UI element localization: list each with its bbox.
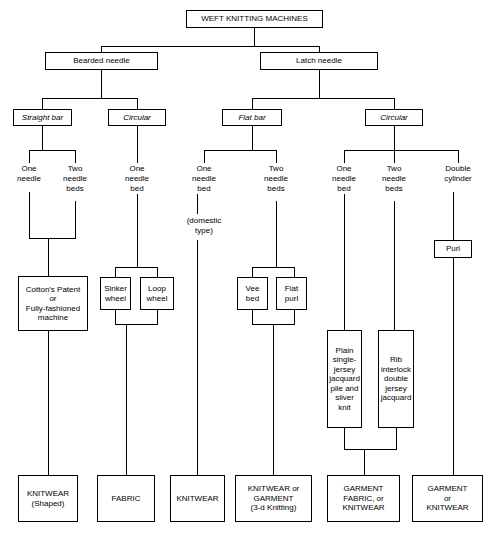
connector-bearded-bus bbox=[42, 98, 137, 99]
connector-flat-purl-down bbox=[294, 310, 295, 324]
connector-latch-to-flat-bar bbox=[252, 98, 253, 109]
connector-wheel-split-bus bbox=[115, 267, 158, 268]
connector-flat-bar-to-two-needle-beds bbox=[276, 150, 277, 163]
node-flat-bar: Flat bar bbox=[222, 109, 282, 126]
connector-to-loop-wheel bbox=[157, 267, 158, 277]
node-latch-needle: Latch needle bbox=[260, 52, 378, 70]
label-two-needle-beds-flat-bar: Two needle beds bbox=[253, 164, 299, 194]
label-one-needle-straight-bar: One needle bbox=[6, 164, 52, 184]
connector-circular-latch-to-double-cylinder bbox=[458, 150, 459, 163]
output-knitwear-or-garment-3d-knitting: KNITWEAR or GARMENT (3-d Knitting) bbox=[235, 475, 312, 522]
connector-purl-down bbox=[453, 258, 454, 475]
connector-to-sinker-wheel bbox=[115, 267, 116, 277]
output-knitwear-shaped: KNITWEAR (Shaped) bbox=[18, 475, 78, 522]
connector-circular-latch-bus bbox=[344, 150, 458, 151]
label-two-needle-beds-straight-bar: Two needle beds bbox=[52, 164, 98, 194]
connector-bearded-stem bbox=[101, 70, 102, 98]
connector-bearded-to-circular bbox=[137, 98, 138, 109]
connector-circular-bearded-bed-down bbox=[137, 192, 138, 267]
connector-flat-bar-one-bed-down bbox=[197, 192, 198, 214]
connector-straight-bar-merge-bus bbox=[29, 238, 76, 239]
connector-to-flat-purl bbox=[294, 267, 295, 277]
node-circular-latch: Circular bbox=[365, 109, 423, 126]
connector-circular-latch-two-beds-down bbox=[394, 201, 395, 330]
connector-straight-bar-bus bbox=[29, 150, 75, 151]
output-garment-fabric-or-knitwear: GARMENT FABRIC, or KNITWEAR bbox=[327, 475, 400, 522]
connector-loop-wheel-down bbox=[157, 310, 158, 324]
connector-rib-interlock-down bbox=[396, 428, 397, 449]
connector-latch-bus bbox=[252, 98, 394, 99]
label-one-needle-bed-flat-bar: One needle bed bbox=[181, 164, 227, 194]
connector-circular-latch-to-one-needle-bed bbox=[344, 150, 345, 163]
label-two-needle-beds-circular-latch: Two needle beds bbox=[371, 164, 417, 194]
connector-to-vee-bed bbox=[252, 267, 253, 277]
node-circular-bearded: Circular bbox=[108, 109, 166, 126]
connector-sinker-wheel-down bbox=[115, 310, 116, 324]
connector-latch-stem bbox=[319, 70, 320, 98]
connector-domestic-type-down bbox=[197, 240, 198, 475]
label-one-needle-bed-circular-latch: One needle bed bbox=[321, 164, 367, 194]
output-knitwear: KNITWEAR bbox=[170, 475, 225, 522]
label-domestic-type-annotation: (domestic type) bbox=[177, 216, 231, 236]
node-cottons-patent-fully-fashioned: Cotton's Patent or Fully-fashioned machi… bbox=[18, 276, 88, 331]
connector-vee-bed-down bbox=[252, 310, 253, 324]
connector-vee-flat-merge-stem bbox=[273, 324, 274, 475]
connector-circular-latch-one-bed-down bbox=[344, 192, 345, 330]
node-flat-purl: Flat purl bbox=[276, 277, 307, 310]
connector-root-stem bbox=[254, 28, 255, 46]
connector-wheels-merge-bus bbox=[115, 324, 158, 325]
connector-flat-bar-to-one-needle-bed bbox=[204, 150, 205, 163]
connector-one-needle-down bbox=[29, 192, 30, 238]
label-one-needle-bed-circular-bearded: One needle bed bbox=[114, 164, 160, 194]
connector-straight-bar-to-one-needle bbox=[29, 150, 30, 163]
node-bearded-needle: Bearded needle bbox=[45, 52, 158, 70]
connector-flat-bar-stem bbox=[252, 126, 253, 150]
node-vee-bed: Vee bed bbox=[237, 277, 268, 310]
connector-straight-bar-merge-stem bbox=[48, 238, 49, 276]
connector-circular-latch-to-two-needle-beds bbox=[394, 150, 395, 163]
node-straight-bar: Straight bar bbox=[13, 109, 72, 126]
connector-wheels-merge-stem bbox=[126, 324, 127, 475]
node-weft-knitting-machines: WEFT KNITTING MACHINES bbox=[186, 10, 323, 28]
connector-straight-bar-to-two-needle-beds bbox=[75, 150, 76, 163]
node-purl: Purl bbox=[434, 240, 472, 258]
output-garment-or-knitwear: GARMENT or KNITWEAR bbox=[412, 475, 483, 522]
connector-two-needle-beds-down bbox=[75, 201, 76, 238]
connector-flat-bar-bus bbox=[204, 150, 276, 151]
connector-vee-flat-split-bus bbox=[252, 267, 295, 268]
connector-straight-bar-stem bbox=[42, 126, 43, 150]
connector-flat-bar-two-beds-down bbox=[276, 201, 277, 267]
connector-plain-single-jersey-down bbox=[344, 428, 345, 449]
node-rib-interlock-double-jersey-jacquard: Rib interlock double jersey jacquard bbox=[378, 330, 414, 428]
weft-knitting-machines-flowchart: WEFT KNITTING MACHINES Bearded needle La… bbox=[0, 0, 497, 537]
connector-circular-latch-merge-stem bbox=[364, 449, 365, 475]
connector-circular-latch-stem bbox=[394, 126, 395, 150]
connector-bearded-to-straight-bar bbox=[42, 98, 43, 109]
connector-root-bus bbox=[101, 46, 319, 47]
node-sinker-wheel: Sinker wheel bbox=[100, 277, 131, 310]
connector-cottons-patent-down bbox=[48, 331, 49, 475]
connector-circular-latch-merge-bus bbox=[344, 449, 397, 450]
node-loop-wheel: Loop wheel bbox=[140, 277, 174, 310]
connector-latch-to-circular bbox=[394, 98, 395, 109]
node-plain-single-jersey-jacquard: Plain single- jersey jacquard pile and s… bbox=[327, 330, 362, 428]
label-double-cylinder: Double cylinder bbox=[431, 164, 485, 184]
output-fabric: FABRIC bbox=[97, 475, 155, 522]
connector-double-cylinder-to-purl bbox=[453, 192, 454, 240]
connector-circular-bearded-stem bbox=[137, 126, 138, 163]
